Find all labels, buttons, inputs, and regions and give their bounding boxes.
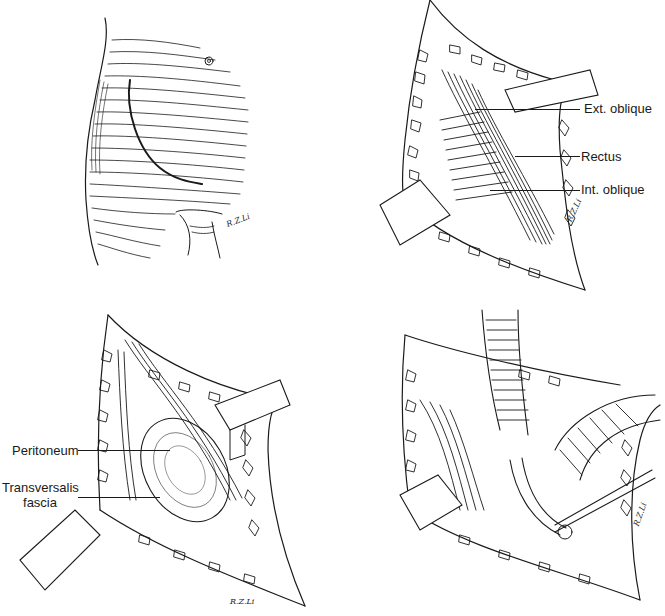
label-transversalis-line1: Transversalis — [2, 480, 78, 495]
label-rectus: Rectus — [581, 149, 621, 164]
abdomen-illustration — [0, 0, 330, 290]
label-int-oblique: Int. oblique — [581, 182, 645, 197]
label-peritoneum: Peritoneum — [12, 443, 78, 458]
artist-signature-c: R.Z.Li — [230, 597, 254, 606]
label-transversalis-line2: fascia — [2, 495, 78, 510]
muscle-layers-illustration — [380, 0, 600, 300]
leader-ext-oblique — [475, 109, 580, 110]
panel-d-deep-exposure: R.Z.Li — [390, 310, 665, 616]
leader-transversalis-fascia — [78, 497, 160, 498]
panel-b-muscle-layers: Ext. oblique Rectus Int. oblique R.Z.Li — [380, 0, 665, 300]
deep-exposure-illustration — [390, 310, 665, 616]
leader-int-oblique — [490, 190, 580, 191]
peritoneum-illustration — [0, 310, 330, 616]
panel-a-abdomen-incision: R.Z.Li — [0, 0, 330, 290]
panel-c-peritoneum: Peritoneum Transversalis fascia R.Z.Li — [0, 310, 330, 616]
leader-peritoneum — [78, 450, 170, 451]
leader-rectus — [515, 156, 580, 157]
label-transversalis-fascia: Transversalis fascia — [2, 480, 78, 510]
label-ext-oblique: Ext. oblique — [584, 101, 652, 116]
